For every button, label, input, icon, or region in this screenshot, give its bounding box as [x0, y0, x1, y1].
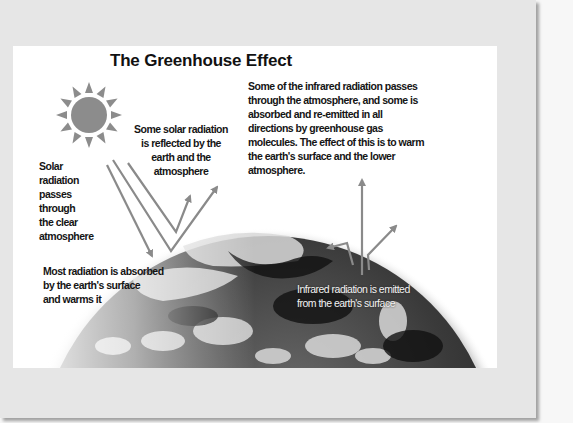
solar-passes-label: Solar radiation passes through the clear…: [39, 159, 94, 243]
image-frame: The Greenhouse Effect Some solar radiati…: [0, 0, 536, 418]
greenhouse-slide: The Greenhouse Effect Some solar radiati…: [13, 46, 497, 368]
infrared-trapped-label: Some of the infrared radiation passes th…: [248, 79, 478, 177]
absorbed-radiation-label: Most radiation is absorbed by the earth'…: [43, 264, 164, 306]
reflected-radiation-label: Some solar radiation is reflected by the…: [121, 122, 241, 178]
infrared-diagonal-arrow: [368, 226, 396, 270]
reemitted-arrow: [328, 243, 353, 265]
slide-title: The Greenhouse Effect: [110, 51, 292, 71]
infrared-emitted-label: Infrared radiation is emitted from the e…: [297, 282, 410, 310]
